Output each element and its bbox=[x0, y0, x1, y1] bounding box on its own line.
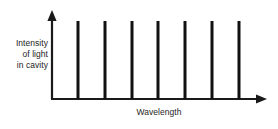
y-axis-label: Intensity of light in cavity bbox=[2, 38, 48, 70]
y-axis-label-line-3: in cavity bbox=[2, 60, 48, 71]
x-axis-label: Wavelength bbox=[52, 107, 266, 118]
y-axis-label-line-1: Intensity bbox=[2, 38, 48, 49]
spikes-group bbox=[78, 21, 239, 99]
y-axis-arrowhead bbox=[47, 10, 56, 21]
x-axis-arrowhead bbox=[256, 94, 267, 103]
y-axis-label-line-2: of light bbox=[2, 49, 48, 60]
cavity-modes-figure: Intensity of light in cavity Wavelength bbox=[0, 0, 278, 129]
